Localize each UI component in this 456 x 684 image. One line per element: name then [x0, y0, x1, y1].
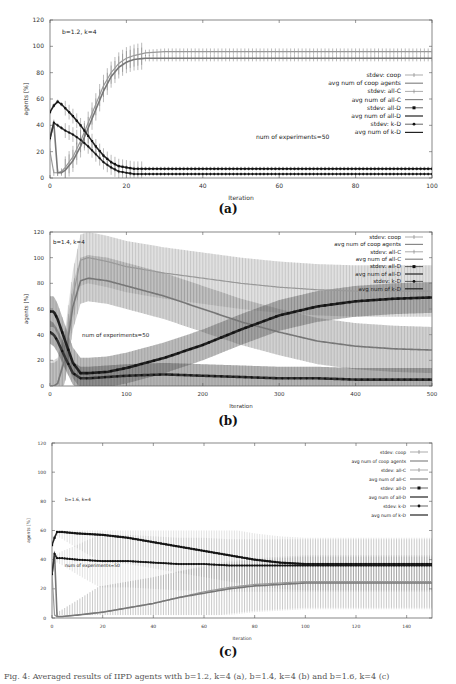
square-marker [358, 168, 360, 170]
diamond-marker [218, 564, 220, 566]
diamond-marker [395, 564, 397, 566]
square-marker [257, 322, 259, 324]
diamond-marker [427, 173, 429, 175]
square-marker [248, 168, 250, 170]
square-marker [279, 561, 281, 563]
square-marker [51, 544, 53, 546]
diamond-marker [307, 564, 309, 566]
square-marker [355, 168, 357, 170]
legend-entry-label: avg num of all-D [369, 495, 407, 500]
diamond-marker [413, 564, 415, 566]
diamond-marker [114, 168, 116, 170]
x-tick-label: 100 [121, 391, 132, 397]
diamond-marker [327, 564, 329, 566]
square-marker [61, 531, 63, 533]
diamond-marker [196, 374, 198, 376]
square-marker [284, 562, 286, 564]
square-marker [412, 168, 414, 170]
square-marker [274, 168, 276, 170]
square-marker [312, 306, 314, 308]
square-marker [264, 560, 266, 562]
diamond-marker [343, 173, 345, 175]
square-marker [114, 163, 116, 165]
diamond-marker [274, 173, 276, 175]
diamond-marker [127, 560, 129, 562]
diamond-marker [397, 173, 399, 175]
diamond-marker [53, 122, 55, 124]
diamond-marker [266, 564, 268, 566]
square-marker [106, 158, 108, 160]
diamond-marker [255, 173, 257, 175]
diamond-marker [337, 564, 339, 566]
diamond-marker [363, 564, 365, 566]
square-marker [269, 560, 271, 562]
square-marker [271, 561, 273, 563]
y-axis-label: agents [%] [23, 294, 30, 324]
diamond-marker [194, 173, 196, 175]
square-marker [373, 299, 375, 301]
diamond-marker [157, 562, 159, 564]
diamond-marker [401, 564, 403, 566]
square-marker [76, 532, 78, 534]
square-marker [305, 168, 307, 170]
square-marker [324, 168, 326, 170]
legend-entry-label: stdev: all-C [381, 468, 406, 473]
diamond-marker [263, 377, 265, 379]
diamond-marker [226, 375, 228, 377]
square-marker [397, 297, 399, 299]
square-marker [416, 168, 418, 170]
diamond-marker [406, 564, 408, 566]
x-tick-label: 0 [48, 182, 52, 189]
square-marker [293, 311, 295, 313]
diamond-marker [388, 564, 390, 566]
diamond-marker [135, 560, 137, 562]
diamond-marker [129, 172, 131, 174]
diamond-marker [348, 378, 350, 380]
square-marker [141, 168, 143, 170]
line-chart-c: 020406080100120020406080100120140Iterati… [0, 433, 456, 653]
diamond-marker [175, 173, 177, 175]
diamond-marker [267, 173, 269, 175]
diamond-marker [290, 173, 292, 175]
square-marker [150, 541, 152, 543]
square-marker [233, 555, 235, 557]
sublabel-c: (c) [0, 645, 456, 659]
legend-entry-label: stdev: k-D [383, 504, 406, 509]
diamond-marker [243, 564, 245, 566]
square-marker [410, 297, 412, 299]
diamond-marker [141, 173, 143, 175]
square-marker [129, 167, 131, 169]
square-marker [282, 168, 284, 170]
diamond-marker [381, 173, 383, 175]
x-tick-label: 0 [48, 391, 52, 397]
diamond-marker [171, 374, 173, 376]
square-marker [232, 168, 234, 170]
square-marker [98, 371, 100, 373]
diamond-marker [358, 173, 360, 175]
params-annotation: b=1.4, k=4 [53, 239, 85, 245]
square-marker [221, 168, 223, 170]
diamond-marker [287, 564, 289, 566]
diamond-marker [214, 375, 216, 377]
square-marker [251, 168, 253, 170]
diamond-marker [152, 561, 154, 563]
diamond-marker [186, 173, 188, 175]
diamond-marker [251, 564, 253, 566]
square-marker [116, 369, 118, 371]
square-marker [99, 150, 101, 152]
diamond-marker [232, 173, 234, 175]
square-marker [147, 540, 149, 542]
square-marker [431, 168, 433, 170]
diamond-marker [180, 563, 182, 565]
square-marker [67, 349, 69, 351]
square-marker [60, 103, 62, 105]
diamond-marker [431, 173, 433, 175]
diamond-marker [380, 564, 382, 566]
square-marker [251, 324, 253, 326]
square-marker [422, 297, 424, 299]
diamond-marker [137, 173, 139, 175]
square-marker [351, 168, 353, 170]
diamond-marker [155, 562, 157, 564]
diamond-marker [193, 563, 195, 565]
square-marker [400, 168, 402, 170]
